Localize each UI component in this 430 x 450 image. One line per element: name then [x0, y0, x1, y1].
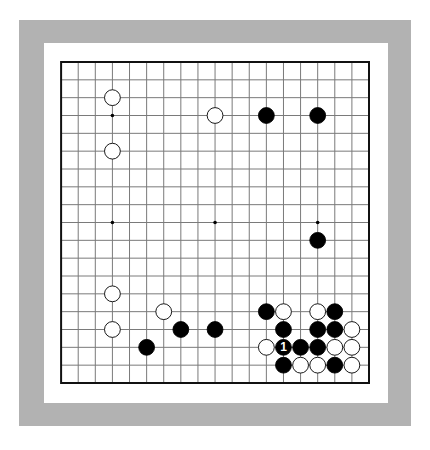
white-stone: [310, 304, 326, 320]
stone-body: [310, 322, 326, 338]
stone-body: [173, 322, 189, 338]
stone-body: [258, 108, 274, 124]
black-stone: [327, 304, 343, 320]
black-stone: [173, 322, 189, 338]
black-stone: [327, 322, 343, 338]
stone-body: [344, 357, 360, 373]
white-stone: [105, 286, 121, 302]
black-stone: [310, 108, 326, 124]
stone-body: [258, 339, 274, 355]
stone-body: [207, 108, 223, 124]
stone-body: [105, 322, 121, 338]
white-stone: [105, 322, 121, 338]
move-number-label: 1: [280, 340, 287, 354]
white-stone: [310, 357, 326, 373]
white-stone: [258, 339, 274, 355]
white-stone: [344, 357, 360, 373]
white-stone: [105, 143, 121, 159]
black-stone: [258, 108, 274, 124]
black-stone: [276, 357, 292, 373]
stone-body: [276, 357, 292, 373]
stone-body: [156, 304, 172, 320]
stone-body: [344, 339, 360, 355]
black-stone: [293, 339, 309, 355]
white-stone: [344, 322, 360, 338]
black-stone: [327, 357, 343, 373]
white-stone: [105, 90, 121, 106]
stone-body: [207, 322, 223, 338]
star-point: [111, 221, 115, 225]
stone-body: [105, 90, 121, 106]
stone-body: [105, 143, 121, 159]
black-stone: [207, 322, 223, 338]
stone-body: [293, 339, 309, 355]
stone-body: [293, 357, 309, 373]
black-stone: [310, 322, 326, 338]
go-board: 1: [0, 0, 430, 450]
white-stone: [327, 339, 343, 355]
black-stone: [276, 322, 292, 338]
stone-body: [258, 304, 274, 320]
star-point: [213, 221, 217, 225]
white-stone: [276, 304, 292, 320]
black-stone: [310, 339, 326, 355]
black-stone: [258, 304, 274, 320]
white-stone: [344, 339, 360, 355]
stone-body: [105, 286, 121, 302]
stone-body: [310, 304, 326, 320]
black-stone: [139, 339, 155, 355]
stone-body: [139, 339, 155, 355]
white-stone: [293, 357, 309, 373]
stone-body: [276, 322, 292, 338]
stone-body: [327, 322, 343, 338]
stone-body: [276, 304, 292, 320]
stone-body: [327, 304, 343, 320]
stone-body: [344, 322, 360, 338]
white-stone: [207, 108, 223, 124]
stone-body: [310, 339, 326, 355]
stone-body: [310, 357, 326, 373]
stone-body: [327, 357, 343, 373]
star-point: [111, 114, 115, 118]
star-point: [316, 221, 320, 225]
white-stone: [156, 304, 172, 320]
black-stone: [310, 232, 326, 248]
stone-body: [310, 108, 326, 124]
stone-body: [310, 232, 326, 248]
black-stone: 1: [276, 339, 292, 355]
stone-body: [327, 339, 343, 355]
